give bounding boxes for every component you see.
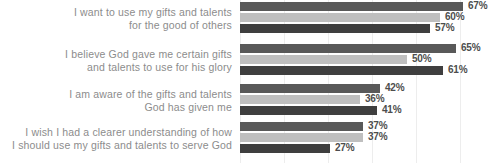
bar-value-label: 50% — [412, 53, 431, 64]
category-label-line: I want to use my gifts and talents — [0, 6, 232, 19]
bar-group: I am aware of the gifts and talents God … — [0, 84, 502, 122]
category-label-line: for the good of others — [0, 19, 232, 32]
category-label-line: I wish I had a clearer understanding of … — [0, 126, 232, 139]
bar-value-label: 61% — [448, 64, 467, 75]
bar — [240, 133, 363, 142]
bar — [240, 84, 380, 93]
bar-value-label: 67% — [468, 0, 487, 11]
bar-value-label: 41% — [382, 104, 401, 115]
bar-set: 42% 36% 41% — [240, 84, 502, 122]
bar — [240, 66, 443, 75]
category-label-line: I believe God gave me certain gifts — [0, 48, 232, 61]
bar — [240, 2, 463, 11]
bar — [240, 44, 456, 53]
category-label-line: God has given me — [0, 101, 232, 114]
category-label: I wish I had a clearer understanding of … — [0, 126, 232, 152]
bar-set: 37% 37% 27% — [240, 122, 502, 160]
bar — [240, 144, 330, 153]
bar-value-label: 65% — [461, 42, 480, 53]
category-label-line: I should use my gifts and talents to ser… — [0, 139, 232, 152]
bar-set: 67% 60% 57% — [240, 2, 502, 40]
category-label: I want to use my gifts and talents for t… — [0, 6, 232, 32]
bar-value-label: 36% — [365, 93, 384, 104]
bar-value-label: 37% — [368, 120, 387, 131]
bar-value-label: 57% — [435, 22, 454, 33]
bar — [240, 122, 363, 131]
bar-value-label: 27% — [335, 142, 354, 153]
bar-group: I want to use my gifts and talents for t… — [0, 2, 502, 40]
bar — [240, 24, 430, 33]
category-label: I believe God gave me certain gifts and … — [0, 48, 232, 74]
category-label-line: and talents to use for his glory — [0, 61, 232, 74]
bar-value-label: 37% — [368, 131, 387, 142]
bar-group: I wish I had a clearer understanding of … — [0, 122, 502, 160]
bar-group: I believe God gave me certain gifts and … — [0, 44, 502, 82]
bar-set: 65% 50% 61% — [240, 44, 502, 82]
bar-value-label: 60% — [445, 11, 464, 22]
bar — [240, 106, 377, 115]
bar-value-label: 42% — [385, 82, 404, 93]
category-label: I am aware of the gifts and talents God … — [0, 88, 232, 114]
bar — [240, 13, 440, 22]
category-label-line: I am aware of the gifts and talents — [0, 88, 232, 101]
bar — [240, 95, 360, 104]
bar — [240, 55, 407, 64]
bar-chart: I want to use my gifts and talents for t… — [0, 0, 502, 163]
